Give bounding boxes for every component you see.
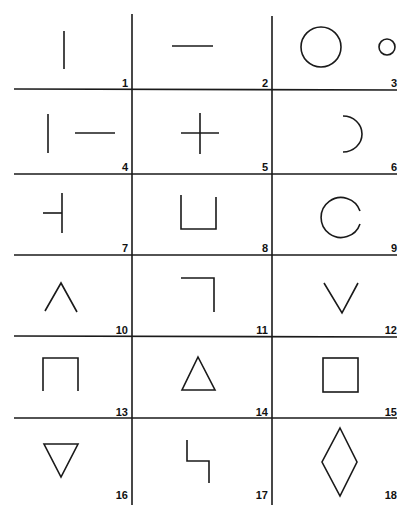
grid-horizontal-divider-1 [14,89,397,90]
cell-number-18: 18 [373,490,397,501]
cell-number-5: 5 [244,162,268,173]
shape-12-v-chevron-icon [324,283,358,313]
shape-6-arc-icon [343,116,362,152]
cell-number-9: 9 [373,243,397,254]
cell-number-16: 16 [104,490,128,501]
shape-11-corner-icon [181,278,214,312]
cell-number-10: 10 [104,325,128,336]
grid-lines [14,14,397,505]
shape-3-circles-icon [301,27,395,67]
shape-4-line-pair-icon [48,114,115,153]
cell-number-2: 2 [244,78,268,89]
shape-14-triangle-up-icon [182,357,215,390]
shape-5-plus-icon [181,113,219,154]
shape-8-u-shape-icon [181,195,216,229]
cell-number-17: 17 [244,490,268,501]
cell-number-3: 3 [373,78,397,89]
cell-number-14: 14 [244,407,268,418]
shape-16-triangle-down-icon [44,444,78,477]
grid-horizontal-divider-4 [14,336,397,337]
cell-number-7: 7 [104,243,128,254]
cell-number-12: 12 [373,325,397,336]
shape-18-diamond-icon [322,428,357,496]
shape-7-tick-line-icon [43,193,62,233]
cell-number-15: 15 [373,407,397,418]
cell-number-13: 13 [104,407,128,418]
cell-number-4: 4 [104,162,128,173]
shape-15-square-icon [323,358,358,392]
cell-number-6: 6 [373,162,397,173]
cell-number-1: 1 [104,78,128,89]
shape-13-n-shape-icon [43,358,78,391]
shape-9-c-shape-icon [321,198,360,238]
cell-number-8: 8 [244,243,268,254]
shape-10-caret-icon [45,283,77,312]
cell-number-11: 11 [244,325,268,336]
shape-17-step-icon [187,440,209,483]
shape-grid-diagram [0,0,412,512]
